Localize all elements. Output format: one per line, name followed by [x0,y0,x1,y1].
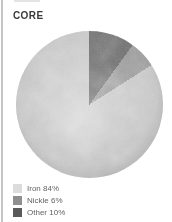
legend-swatch-other [13,208,22,217]
cropped-swatch-remnant [14,0,40,2]
legend: Iron 84% Nickle 6% Other 10% [13,184,65,220]
legend-label-other: Other 10% [27,208,65,217]
legend-swatch-iron [13,184,22,193]
pie-shading-overlay [16,31,163,178]
left-divider [1,0,3,222]
chart-title: CORE [13,10,44,21]
legend-label-nickle: Nickle 6% [27,196,63,205]
legend-item-iron: Iron 84% [13,184,65,193]
legend-swatch-nickle [13,196,22,205]
legend-label-iron: Iron 84% [27,184,59,193]
legend-item-nickle: Nickle 6% [13,196,65,205]
pie-chart [16,31,163,178]
legend-item-other: Other 10% [13,208,65,217]
